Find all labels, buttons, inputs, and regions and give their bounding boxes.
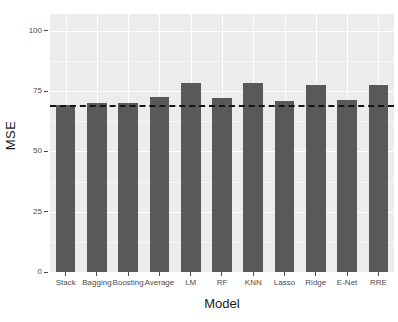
bar-average [150, 97, 170, 272]
x-tick: Ridge [300, 272, 331, 287]
x-tick: LM [175, 272, 206, 287]
y-tick-label: 75 [33, 85, 42, 97]
x-tick-mark [347, 272, 348, 276]
y-tick: 100 [29, 25, 48, 37]
x-tick-mark [378, 272, 379, 276]
x-tick: Boosting [113, 272, 144, 287]
bar-lm [181, 83, 201, 272]
x-tick-mark [65, 272, 66, 276]
y-tick-mark [44, 151, 48, 152]
x-tick-label: KNN [238, 278, 269, 287]
y-tick: 25 [33, 206, 48, 218]
x-tick: KNN [238, 272, 269, 287]
bar-lasso [275, 101, 295, 272]
x-tick-label: Bagging [81, 278, 112, 287]
x-tick-label: RF [206, 278, 237, 287]
y-tick-label: 100 [29, 25, 42, 37]
x-tick: Stack [50, 272, 81, 287]
x-tick-label: Stack [50, 278, 81, 287]
bar-rre [369, 85, 389, 272]
x-tick-label: Ridge [300, 278, 331, 287]
y-tick-label: 50 [33, 145, 42, 157]
x-tick-mark [315, 272, 316, 276]
bar-stack [56, 105, 76, 272]
x-axis: StackBaggingBoostingAverageLMRFKNNLassoR… [50, 272, 394, 296]
y-tick: 0 [38, 266, 48, 278]
x-tick: RRE [363, 272, 394, 287]
y-axis: 0255075100 [22, 0, 48, 322]
y-tick-mark [44, 272, 48, 273]
y-tick: 50 [33, 145, 48, 157]
x-tick-mark [190, 272, 191, 276]
x-tick: Average [144, 272, 175, 287]
x-tick-mark [284, 272, 285, 276]
y-tick: 75 [33, 85, 48, 97]
y-axis-title: MSE [0, 0, 22, 270]
x-tick: Bagging [81, 272, 112, 287]
y-tick-mark [44, 91, 48, 92]
x-tick-mark [96, 272, 97, 276]
bar-rf [212, 98, 232, 272]
stack-reference-line [50, 105, 394, 107]
y-tick-label: 25 [33, 206, 42, 218]
x-axis-title: Model [50, 296, 394, 311]
x-tick-mark [159, 272, 160, 276]
plot-panel [50, 14, 394, 272]
bar-bagging [87, 103, 107, 272]
x-tick: RF [206, 272, 237, 287]
y-tick-mark [44, 30, 48, 31]
x-tick: E-Net [331, 272, 362, 287]
bar-knn [243, 83, 263, 272]
x-tick: Lasso [269, 272, 300, 287]
bar-boosting [118, 103, 138, 272]
x-tick-label: Average [144, 278, 175, 287]
y-tick-label: 0 [38, 266, 42, 278]
x-tick-mark [128, 272, 129, 276]
x-tick-mark [253, 272, 254, 276]
chart-figure: MSE 0255075100 StackBaggingBoostingAvera… [0, 0, 398, 322]
y-tick-mark [44, 211, 48, 212]
bar-ridge [306, 85, 326, 272]
x-tick-label: E-Net [331, 278, 362, 287]
y-axis-title-text: MSE [4, 120, 19, 150]
x-tick-label: Lasso [269, 278, 300, 287]
bar-e-net [337, 100, 357, 272]
x-tick-label: RRE [363, 278, 394, 287]
x-tick-mark [221, 272, 222, 276]
x-tick-label: Boosting [113, 278, 144, 287]
x-tick-label: LM [175, 278, 206, 287]
